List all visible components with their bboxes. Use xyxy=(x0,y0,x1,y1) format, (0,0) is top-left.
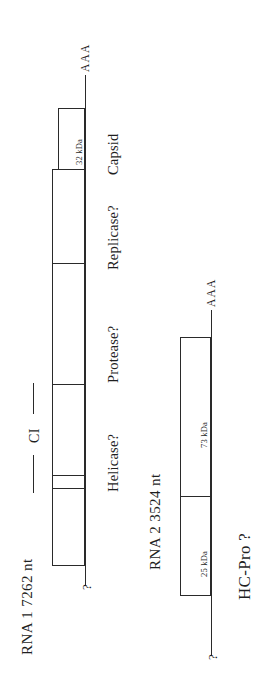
rna2-five-prime-label: ? xyxy=(206,654,219,660)
ci-bracket-dash-top xyxy=(33,383,34,414)
rna1-orf-replicase xyxy=(52,169,85,264)
rna1-orf-protease xyxy=(52,263,85,385)
rna2-function-label: HC-Pro ? xyxy=(236,533,253,600)
rna2-orf-73kda xyxy=(180,337,211,497)
rna1-orf-five-prime xyxy=(52,488,85,566)
rna1-capsid-label: Capsid xyxy=(106,134,121,175)
rna1-ci-label: CI xyxy=(28,428,42,443)
rna1-helicase-label: Helicase? xyxy=(106,434,121,492)
rna2-backbone-line xyxy=(211,310,212,655)
rna1-protease-label: Protease? xyxy=(106,326,121,383)
genome-organization-figure: AAA ? 32 kDa Capsid Replicase? Protease?… xyxy=(0,0,261,695)
rna1-three-prime-label: AAA xyxy=(80,43,92,72)
rna2-orf-25kda xyxy=(180,496,211,596)
rna1-orf-ci-segment xyxy=(52,475,85,489)
rna2-25kda-size-label: 25 kDa xyxy=(200,551,209,577)
rna1-replicase-label: Replicase? xyxy=(106,205,121,270)
rna2-73kda-size-label: 73 kDa xyxy=(200,422,209,448)
rna1-title: RNA 1 7262 nt xyxy=(20,559,35,655)
rna2-three-prime-label: AAA xyxy=(206,278,218,307)
rna1-five-prime-label: ? xyxy=(80,584,93,590)
rna1-capsid-size-label: 32 kDa xyxy=(75,139,84,165)
rna1-backbone-line xyxy=(85,75,86,585)
rna1-orf-helicase xyxy=(52,384,85,476)
rna2-title: RNA 2 3524 nt xyxy=(148,474,163,570)
ci-bracket-dash-bottom xyxy=(33,455,34,493)
